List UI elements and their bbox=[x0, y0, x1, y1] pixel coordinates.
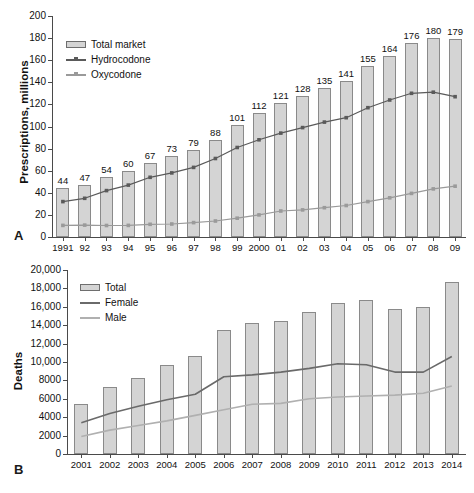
data-point-marker bbox=[366, 106, 370, 110]
data-point-marker bbox=[453, 95, 457, 99]
legend-label: Oxycodone bbox=[91, 69, 142, 80]
y-tick-label: 0 bbox=[9, 449, 61, 459]
data-point-marker bbox=[432, 187, 436, 191]
data-point-marker bbox=[105, 189, 109, 193]
y-tick-label: 20 bbox=[0, 210, 46, 220]
data-point-marker bbox=[344, 116, 348, 120]
data-point-marker bbox=[83, 223, 87, 227]
y-tick-label: 120 bbox=[0, 99, 46, 109]
panel-b-letter: B bbox=[14, 462, 23, 477]
data-point-marker bbox=[432, 90, 436, 94]
y-tick-label: 18,000 bbox=[9, 283, 61, 293]
y-tick-label: 180 bbox=[0, 33, 46, 43]
data-point-marker bbox=[257, 138, 261, 142]
data-point-marker bbox=[127, 224, 131, 228]
y-tick-label: 100 bbox=[0, 122, 46, 132]
data-point-marker bbox=[61, 224, 65, 228]
data-point-marker bbox=[388, 196, 392, 200]
panel-a-prescriptions: A Prescriptions, millions 02040608010012… bbox=[0, 0, 474, 255]
data-point-marker bbox=[148, 223, 152, 227]
data-point-marker bbox=[148, 176, 152, 180]
line-series-male bbox=[81, 386, 452, 437]
y-tick-label: 2000 bbox=[9, 431, 61, 441]
legend-swatch-line-icon bbox=[80, 317, 100, 319]
data-point-marker bbox=[214, 157, 218, 161]
y-tick-label: 40 bbox=[0, 188, 46, 198]
data-point-marker bbox=[410, 92, 414, 96]
figure-container: A Prescriptions, millions 02040608010012… bbox=[0, 0, 474, 493]
data-point-marker bbox=[453, 184, 457, 188]
data-point-marker bbox=[83, 197, 87, 201]
data-point-marker bbox=[170, 171, 174, 175]
y-tick-label: 8000 bbox=[9, 375, 61, 385]
line-series-hydrocodone bbox=[63, 92, 455, 201]
data-point-marker bbox=[127, 183, 131, 187]
data-point-marker bbox=[323, 120, 327, 124]
y-tick-label: 6000 bbox=[9, 394, 61, 404]
y-tick-label: 10,000 bbox=[9, 357, 61, 367]
legend-swatch-line-icon bbox=[66, 74, 86, 76]
y-tick-label: 4000 bbox=[9, 412, 61, 422]
legend-swatch-bar-icon bbox=[66, 41, 86, 48]
panel-b-deaths: B Deaths 0200040006000800010,00012,00014… bbox=[0, 255, 474, 493]
y-tick-label: 140 bbox=[0, 77, 46, 87]
legend-swatch-line-icon bbox=[80, 302, 100, 304]
x-tick-label: 2014 bbox=[434, 460, 470, 470]
data-point-marker bbox=[410, 192, 414, 196]
data-point-marker bbox=[344, 204, 348, 208]
data-point-marker bbox=[301, 126, 305, 130]
data-point-marker bbox=[257, 213, 261, 217]
legend-swatch-bar-icon bbox=[80, 284, 100, 291]
legend-label: Male bbox=[105, 312, 127, 323]
x-tick-label: 09 bbox=[437, 243, 473, 253]
data-point-marker bbox=[192, 221, 196, 225]
y-tick-label: 80 bbox=[0, 144, 46, 154]
y-tick-label: 14,000 bbox=[9, 320, 61, 330]
legend-marker-icon bbox=[74, 72, 78, 76]
line-series-oxycodone bbox=[63, 186, 455, 225]
y-tick-label: 60 bbox=[0, 166, 46, 176]
legend-label: Female bbox=[105, 297, 138, 308]
data-point-marker bbox=[279, 209, 283, 213]
y-tick-label: 0 bbox=[0, 232, 46, 242]
legend-label: Hydrocodone bbox=[91, 54, 150, 65]
data-point-marker bbox=[105, 224, 109, 228]
y-tick-label: 20,000 bbox=[9, 265, 61, 275]
y-tick-label: 16,000 bbox=[9, 302, 61, 312]
data-point-marker bbox=[301, 208, 305, 212]
data-point-marker bbox=[366, 200, 370, 204]
line-series-female bbox=[81, 357, 452, 423]
data-point-marker bbox=[235, 216, 239, 220]
y-tick-label: 200 bbox=[0, 11, 46, 21]
y-tick-label: 12,000 bbox=[9, 339, 61, 349]
legend-swatch-line-icon bbox=[66, 59, 86, 61]
data-point-marker bbox=[170, 222, 174, 226]
legend-label: Total market bbox=[91, 39, 145, 50]
y-tick-label: 160 bbox=[0, 55, 46, 65]
legend-marker-icon bbox=[74, 57, 78, 61]
data-point-marker bbox=[192, 166, 196, 170]
legend-label: Total bbox=[105, 282, 126, 293]
data-point-marker bbox=[61, 200, 65, 204]
data-point-marker bbox=[235, 146, 239, 150]
data-point-marker bbox=[323, 206, 327, 210]
data-point-marker bbox=[388, 98, 392, 102]
data-point-marker bbox=[214, 219, 218, 223]
data-point-marker bbox=[279, 131, 283, 135]
